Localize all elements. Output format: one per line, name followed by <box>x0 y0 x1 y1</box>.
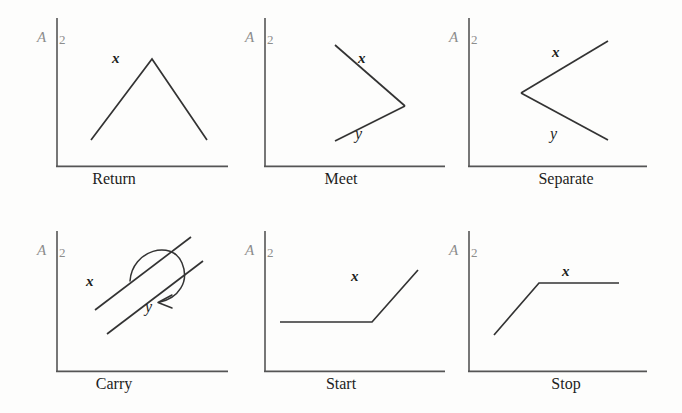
curve-y <box>521 93 608 140</box>
panel-caption-carry: Carry <box>0 375 228 393</box>
panel-carry: A 2 x y Carry <box>0 206 228 412</box>
curve-x <box>494 283 619 335</box>
y-axis-tick: 2 <box>471 32 478 48</box>
y-axis-tick: 2 <box>267 245 274 261</box>
curve-label-y: y <box>145 298 152 316</box>
y-axis-name: A <box>37 29 46 46</box>
curve-label-x: x <box>562 263 570 280</box>
panel-caption-meet: Meet <box>227 170 455 188</box>
y-axis-name: A <box>449 242 458 259</box>
curve-x <box>335 45 405 106</box>
curve-label-x: x <box>112 50 120 67</box>
y-axis-tick: 2 <box>59 245 66 261</box>
y-axis-name: A <box>449 29 458 46</box>
curve-label-y: y <box>355 125 362 143</box>
curve-label-y: y <box>550 125 557 143</box>
y-axis-tick: 2 <box>267 32 274 48</box>
curve-y <box>107 261 203 334</box>
curve-x <box>521 41 608 93</box>
panel-separate: A 2 x y Separate <box>452 0 680 206</box>
panel-start: A 2 x Start <box>227 206 455 412</box>
panel-caption-stop: Stop <box>452 375 680 393</box>
panel-meet: A 2 x y Meet <box>227 0 455 206</box>
curve-label-x: x <box>86 273 94 290</box>
panel-caption-separate: Separate <box>452 170 680 188</box>
panel-caption-return: Return <box>0 170 228 188</box>
curve-label-x: x <box>552 44 560 61</box>
curve-y <box>335 106 405 141</box>
figure-root: A 2 x Return A 2 x y Meet A 2 x y Separa… <box>0 0 682 413</box>
panel-return: A 2 x Return <box>0 0 228 206</box>
curve-x <box>95 237 191 310</box>
carry-arrow <box>130 250 185 302</box>
curve-label-x: x <box>351 268 359 285</box>
carry-arrowhead-icon <box>158 295 172 308</box>
y-axis-name: A <box>245 29 254 46</box>
panel-caption-start: Start <box>227 375 455 393</box>
panel-stop: A 2 x Stop <box>452 206 680 412</box>
curve-label-x: x <box>358 50 366 67</box>
y-axis-tick: 2 <box>471 245 478 261</box>
curve-x <box>91 59 207 140</box>
y-axis-name: A <box>37 242 46 259</box>
y-axis-name: A <box>245 242 254 259</box>
curve-x <box>280 270 418 322</box>
y-axis-tick: 2 <box>59 32 66 48</box>
